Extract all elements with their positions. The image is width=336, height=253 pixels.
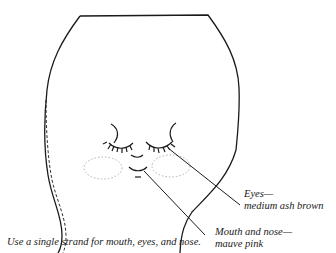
head-outline: [45, 15, 239, 253]
eyes-label: Eyes—: [244, 188, 273, 200]
left-cheek-dotted: [84, 157, 122, 179]
face-pattern-drawing: [0, 0, 336, 253]
seam-dashed-line: [46, 100, 66, 253]
right-eye: [146, 123, 176, 153]
mouth-nose-label: Mouth and nose—: [215, 226, 292, 238]
mouth-leader-line: [144, 171, 205, 235]
nose: [131, 155, 143, 157]
left-eye: [103, 124, 133, 153]
right-cheek-dotted: [152, 155, 190, 177]
eyes-leader-line: [168, 148, 240, 205]
mouth-nose-color-label: mauve pink: [215, 238, 263, 250]
eyes-color-label: medium ash brown: [244, 200, 324, 212]
instruction-caption: Use a single strand for mouth, eyes, and…: [7, 236, 201, 248]
mouth: [129, 167, 147, 171]
